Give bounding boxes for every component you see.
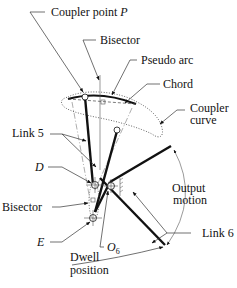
right-angle-mark-lower (91, 198, 95, 202)
label-bisector-top: Bisector (100, 33, 140, 47)
label-link5: Link 5 (12, 126, 44, 140)
leader-bisector-left (52, 203, 88, 207)
leader-coupler-point (30, 12, 83, 92)
coupler-curve (61, 92, 162, 137)
link5-bar-a (85, 97, 93, 185)
label-dwell-1: Dwell (70, 250, 100, 264)
label-pseudo-arc: Pseudo arc (141, 53, 193, 67)
leader-bisector-top (83, 40, 99, 80)
label-link6: Link 6 (202, 226, 234, 240)
coupler-pin (114, 127, 120, 133)
coupler-point-p (82, 94, 88, 100)
label-coupler-curve-2: curve (190, 113, 217, 127)
leader-chord (125, 84, 160, 103)
pivot-e (84, 210, 102, 226)
link6-bar-upper (110, 146, 171, 182)
leader-coupler-curve (160, 110, 185, 124)
label-output-motion-2: motion (173, 193, 207, 207)
link5-bar-b (95, 131, 117, 212)
label-o6: O6 (107, 240, 120, 256)
leader-pseudo-arc (112, 60, 137, 95)
label-bisector-left: Bisector (2, 200, 42, 214)
label-e: E (36, 235, 45, 249)
label-chord: Chord (163, 77, 193, 91)
leader-e (50, 222, 90, 242)
label-d: D (34, 160, 44, 174)
dwell-mechanism-diagram: Coupler point P Bisector Pseudo arc Chor… (0, 0, 237, 288)
label-dwell-2: position (70, 263, 109, 277)
label-coupler-point: Coupler point P (51, 5, 128, 19)
